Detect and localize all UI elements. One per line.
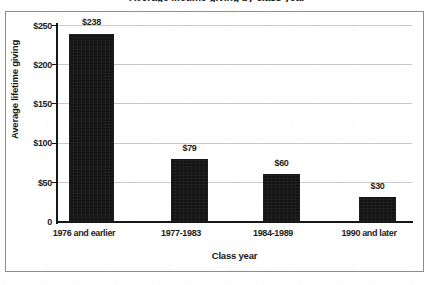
y-axis-title: Average lifetime giving: [9, 30, 20, 150]
chart-title: Average lifetime giving by class year: [0, 0, 434, 2]
y-tick-label-50: $50: [12, 178, 52, 188]
bar-value-1977-1983: $79: [165, 143, 214, 153]
bar-value-1984-1989: $60: [257, 158, 306, 168]
x-category-label-1977-1983: 1977-1983: [141, 228, 221, 238]
y-tick-mark-150: [52, 103, 57, 104]
x-category-label-1990-and-later: 1990 and later: [325, 228, 413, 238]
bar-value-1990-and-later: $30: [353, 181, 402, 191]
plot-area: $238 $79 $60 $30: [58, 25, 412, 222]
y-tick-mark-200: [52, 64, 57, 65]
x-category-label-1984-1989: 1984-1989: [233, 228, 313, 238]
bar-1977-1983[interactable]: [171, 159, 208, 221]
bar-1984-1989[interactable]: [263, 174, 300, 221]
y-tick-mark-50: [52, 182, 57, 183]
bar-value-1976-and-earlier: $238: [67, 17, 116, 27]
bar-1976-and-earlier[interactable]: [69, 34, 114, 221]
y-tick-mark-100: [52, 143, 57, 144]
x-axis-line: [56, 221, 413, 223]
y-axis-line: [56, 23, 58, 224]
x-category-label-1976-and-earlier: 1976 and earlier: [34, 228, 134, 238]
y-tick-label-0: 0: [12, 217, 52, 227]
x-axis-title: Class year: [56, 250, 413, 261]
chart-figure: Average lifetime giving by class year $2…: [0, 0, 434, 285]
y-tick-mark-250: [52, 25, 57, 26]
bar-1990-and-later[interactable]: [359, 197, 396, 221]
